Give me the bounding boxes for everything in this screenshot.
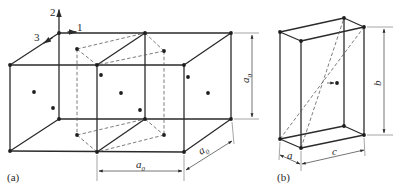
dim-b-label: b <box>371 80 383 86</box>
body-centre-point <box>335 81 339 85</box>
dim-depth-label: a0 <box>196 141 212 159</box>
panel-a-dim-vertical: a0 <box>234 33 259 119</box>
axis-2-label: 2 <box>50 6 56 18</box>
panel-a-dim-horizontal: a0 <box>97 155 184 181</box>
panel-a-axes: 2 1 3 <box>34 6 83 43</box>
panel-a-double-cell: 2 1 3 a0 a0 a0 (a) <box>7 6 259 184</box>
dim-a-label: a <box>287 149 293 161</box>
axis-1-label: 1 <box>77 21 83 33</box>
axis-3-label: 3 <box>34 31 40 43</box>
panel-b-dim-b: b <box>367 27 393 135</box>
panel-b-label: (b) <box>277 171 290 184</box>
panel-b-orthorhombic-cell: b a c (b) <box>277 16 393 184</box>
dim-c-label: c <box>332 145 337 157</box>
crystal-unit-cell-diagram: 2 1 3 a0 a0 a0 (a) <box>0 0 400 192</box>
panel-a-label: (a) <box>7 171 20 184</box>
axis-3-arrow-icon <box>44 38 52 43</box>
